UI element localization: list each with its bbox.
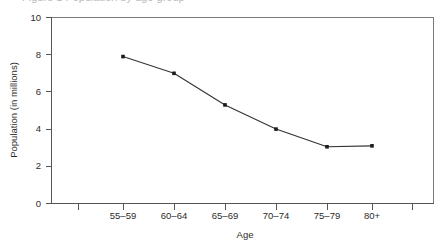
x-tick-label-75-79: 75–79	[314, 210, 340, 221]
y-tick-label-0: 0	[36, 198, 41, 209]
line-chart: 10 8 6 4 2 0 Population (in millions) 55…	[0, 0, 446, 244]
x-axis-title: Age	[237, 229, 254, 240]
y-tick-label-6: 6	[36, 86, 41, 97]
series-line-population	[123, 57, 372, 147]
y-axis-title: Population (in millions)	[8, 62, 19, 158]
y-tick-label-10: 10	[30, 12, 41, 23]
x-tick-label-65-69: 65–69	[212, 210, 238, 221]
x-tick-label-60-64: 60–64	[161, 210, 187, 221]
x-tick-labels: 55–59 60–64 65–69 70–74 75–79 80+	[110, 210, 381, 221]
x-tick-label-55-59: 55–59	[110, 210, 136, 221]
y-tick-label-4: 4	[36, 123, 41, 134]
plot-frame	[52, 18, 434, 204]
x-tick-label-70-74: 70–74	[263, 210, 289, 221]
data-point	[172, 72, 176, 76]
x-tick-label-80-plus: 80+	[364, 210, 381, 221]
x-tick-marks	[79, 204, 413, 210]
data-point	[121, 55, 125, 59]
y-tick-marks	[46, 18, 52, 204]
data-point	[274, 127, 278, 131]
data-point	[370, 144, 374, 148]
chart-screenshot: Figure 1 Population by age group 10 8 6 …	[0, 0, 446, 244]
data-point	[325, 145, 329, 149]
y-tick-label-8: 8	[36, 49, 41, 60]
y-tick-label-2: 2	[36, 160, 41, 171]
y-tick-labels: 10 8 6 4 2 0	[30, 12, 41, 209]
data-point	[223, 103, 227, 107]
